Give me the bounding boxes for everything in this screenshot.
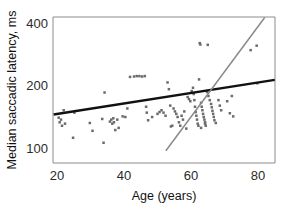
- y-axis-title: Median saccadic latency, ms: [5, 11, 19, 170]
- x-tick-label: 60: [184, 168, 198, 183]
- data-point: [160, 109, 163, 112]
- y-tick-label: 100: [26, 141, 48, 156]
- data-point: [147, 119, 150, 122]
- data-point: [164, 115, 167, 118]
- data-point: [138, 75, 141, 78]
- data-point: [72, 137, 75, 140]
- data-point: [103, 91, 106, 94]
- data-point: [174, 110, 177, 113]
- chart-canvas: 100200400 20406080 Age (years) Median sa…: [0, 0, 292, 212]
- data-point: [176, 116, 179, 119]
- data-point: [183, 110, 186, 113]
- data-point: [212, 113, 215, 116]
- data-point: [202, 113, 205, 116]
- data-point: [232, 115, 235, 118]
- data-point: [162, 111, 165, 114]
- data-point: [199, 43, 202, 46]
- data-point: [113, 121, 116, 124]
- data-point: [198, 78, 201, 81]
- data-point: [249, 49, 252, 52]
- data-point: [91, 130, 94, 133]
- data-point: [200, 127, 203, 130]
- data-point: [200, 106, 203, 109]
- data-point: [229, 112, 232, 115]
- data-point: [169, 104, 172, 107]
- data-point: [144, 75, 147, 78]
- data-point: [133, 75, 136, 78]
- data-point: [226, 100, 229, 103]
- data-point: [101, 118, 104, 121]
- data-point: [201, 109, 204, 112]
- data-point: [61, 124, 64, 127]
- data-point: [60, 118, 63, 121]
- data-point: [196, 118, 199, 121]
- data-point: [211, 106, 214, 109]
- data-point: [151, 116, 154, 119]
- data-point: [175, 113, 178, 116]
- x-axis-tick-labels: 20406080: [50, 168, 265, 183]
- data-point: [211, 110, 214, 113]
- data-point: [168, 88, 171, 91]
- data-point: [89, 122, 92, 125]
- data-point: [166, 81, 169, 84]
- data-point: [194, 106, 197, 109]
- data-point: [58, 121, 61, 124]
- data-point: [145, 106, 148, 109]
- data-point: [129, 76, 132, 79]
- data-point: [112, 117, 115, 120]
- data-point: [57, 116, 60, 119]
- y-axis-tick-labels: 100200400: [26, 16, 48, 156]
- y-tick-label: 200: [26, 78, 48, 93]
- data-point: [192, 87, 195, 90]
- data-point: [255, 44, 258, 47]
- x-axis-title: Age (years): [132, 189, 197, 203]
- x-tick-label: 20: [50, 168, 64, 183]
- data-point: [64, 122, 67, 125]
- saccadic-latency-scatter-figure: 100200400 20406080 Age (years) Median sa…: [0, 0, 292, 212]
- data-point: [217, 99, 220, 102]
- data-point: [121, 115, 124, 118]
- data-point: [220, 109, 223, 112]
- data-point: [213, 119, 216, 122]
- data-point: [180, 115, 183, 118]
- data-point: [135, 75, 138, 78]
- data-point: [213, 116, 216, 119]
- data-point: [124, 116, 127, 119]
- x-tick-label: 80: [251, 168, 265, 183]
- data-point: [171, 124, 174, 127]
- data-point: [204, 122, 207, 125]
- data-point: [185, 127, 188, 130]
- data-point: [146, 111, 149, 114]
- data-point: [178, 121, 181, 124]
- data-point: [209, 99, 212, 102]
- data-point: [116, 118, 119, 121]
- data-point: [172, 107, 175, 110]
- data-point: [102, 142, 105, 145]
- y-tick-label: 400: [26, 16, 48, 31]
- data-point: [193, 99, 196, 102]
- data-point: [207, 44, 210, 47]
- data-point: [126, 107, 129, 110]
- plot-area-background: [53, 17, 275, 163]
- data-point: [231, 95, 234, 98]
- data-point: [203, 118, 206, 121]
- data-point: [210, 103, 213, 106]
- x-tick-label: 40: [117, 168, 131, 183]
- data-point: [182, 118, 185, 121]
- data-point: [195, 115, 198, 118]
- data-point: [117, 127, 120, 130]
- data-point: [189, 100, 192, 103]
- data-point: [219, 104, 222, 107]
- data-point: [179, 124, 182, 127]
- data-point: [141, 75, 144, 78]
- data-point: [197, 124, 200, 127]
- data-point: [114, 129, 117, 132]
- data-point: [215, 122, 218, 125]
- data-point: [202, 116, 205, 119]
- data-point: [62, 109, 64, 112]
